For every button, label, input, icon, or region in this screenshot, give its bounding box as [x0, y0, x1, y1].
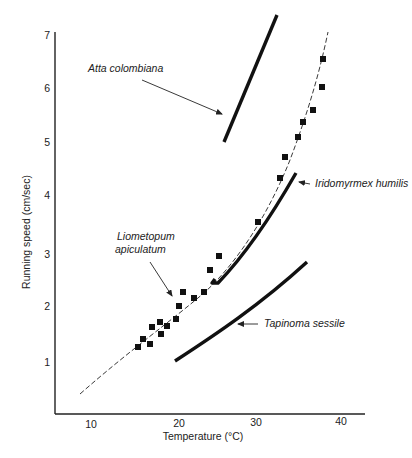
- data-point: [140, 336, 146, 342]
- y-tick-2: 2: [44, 300, 50, 312]
- arrow-atta: [142, 80, 222, 114]
- y-tick-7: 7: [44, 29, 50, 41]
- data-point: [180, 289, 186, 295]
- data-point: [319, 84, 325, 90]
- y-tick-labels: 7 6 5 4 3 2 1: [44, 29, 50, 368]
- y-axis-title: Running speed (cm/sec): [20, 175, 32, 289]
- data-point: [176, 303, 182, 309]
- data-point: [320, 56, 326, 62]
- label-iridomyrmex-humilis: Iridomyrmex humilis: [315, 177, 409, 189]
- x-tick-labels: 10 20 30 40: [85, 415, 347, 430]
- y-tick-3: 3: [44, 248, 50, 260]
- data-point: [201, 289, 207, 295]
- data-point: [310, 107, 316, 113]
- label-tapinoma-sessile: Tapinoma sessile: [264, 317, 345, 329]
- iridomyrmex-humilis-line: [212, 173, 296, 283]
- data-point: [207, 267, 213, 273]
- liometopum-data-points: [135, 56, 326, 350]
- x-axis-title: Temperature (°C): [163, 430, 244, 442]
- liometopum-fit-curve: [80, 32, 328, 394]
- data-point: [277, 175, 283, 181]
- data-point: [164, 323, 170, 329]
- data-point: [147, 341, 153, 347]
- x-tick-10: 10: [85, 418, 97, 430]
- label-liometopum-line1: Liometopum: [117, 230, 175, 242]
- tapinoma-sessile-line: [175, 262, 307, 361]
- data-point: [157, 319, 163, 325]
- x-tick-40: 40: [335, 415, 347, 427]
- running-speed-chart: 7 6 5 4 3 2 1 10 20 30 40 Temperature (°…: [0, 0, 412, 458]
- data-point: [300, 119, 306, 125]
- data-point: [135, 344, 141, 350]
- label-liometopum-line2: apiculatum: [115, 243, 166, 255]
- x-tick-30: 30: [250, 416, 262, 428]
- data-point: [191, 295, 197, 301]
- arrow-iridomyrmex: [299, 182, 310, 184]
- arrow-liometopum: [150, 262, 172, 296]
- data-point: [158, 331, 164, 337]
- data-point: [282, 154, 288, 160]
- x-tick-20: 20: [173, 417, 185, 429]
- data-point: [216, 253, 222, 259]
- data-point: [295, 134, 301, 140]
- y-tick-5: 5: [44, 136, 50, 148]
- data-point: [255, 219, 261, 225]
- axes: [55, 32, 365, 414]
- y-tick-6: 6: [44, 82, 50, 94]
- y-tick-1: 1: [44, 356, 50, 368]
- data-point: [173, 316, 179, 322]
- y-tick-4: 4: [44, 189, 50, 201]
- data-point: [149, 324, 155, 330]
- atta-colombiana-line: [224, 15, 277, 142]
- label-atta-colombiana: Atta colombiana: [87, 62, 163, 74]
